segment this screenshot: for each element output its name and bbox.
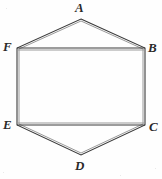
vertex-label-B: B — [148, 41, 157, 54]
vertex-label-C: C — [149, 120, 158, 133]
paper-speck — [120, 175, 121, 176]
hexagon-outline-group — [17, 19, 145, 155]
paper-speck — [3, 172, 4, 173]
hexagon-outline-main — [17, 19, 145, 155]
hexagon-outline-ghost — [19, 21, 143, 153]
paper-speck — [155, 168, 156, 169]
vertex-label-F: F — [3, 40, 12, 53]
vertex-label-D: D — [75, 159, 84, 172]
chord-ec-group — [17, 123, 145, 125]
vertex-label-A: A — [75, 1, 84, 14]
paper-speck — [6, 8, 7, 9]
chord-fb-group — [17, 48, 145, 50]
hexagon-diagram — [0, 0, 162, 179]
vertex-label-E: E — [3, 118, 12, 131]
hexagon-figure: A B C D E F — [0, 0, 162, 179]
